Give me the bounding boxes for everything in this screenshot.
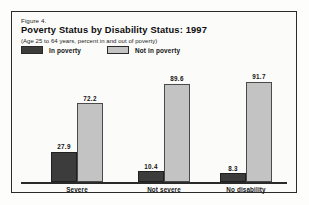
- figure-frame: Figure 4. Poverty Status by Disability S…: [11, 11, 297, 193]
- legend-swatch-in-poverty-icon: [21, 46, 43, 54]
- bar-group-not-severe: 10.4 89.6: [138, 72, 190, 182]
- bar-wrap-not-severe-not-in-poverty: 89.6: [164, 72, 190, 182]
- legend-item-in-poverty[interactable]: In poverty: [21, 46, 81, 54]
- figure-root: Figure 4. Poverty Status by Disability S…: [0, 0, 309, 205]
- x-axis-baseline: [21, 182, 287, 184]
- bar-not-severe-not-in-poverty[interactable]: [164, 84, 190, 183]
- bar-group-severe: 27.9 72.2: [51, 72, 103, 182]
- bar-severe-in-poverty[interactable]: [51, 152, 77, 183]
- chart-legend: In poverty Not in poverty: [21, 46, 180, 54]
- bar-not-severe-in-poverty[interactable]: [138, 171, 164, 182]
- bar-wrap-severe-not-in-poverty: 72.2: [77, 72, 103, 182]
- legend-label-in-poverty: In poverty: [49, 47, 81, 54]
- figure-subtitle: (Age 25 to 64 years, percent in and out …: [21, 37, 289, 46]
- bar-wrap-no-disability-not-in-poverty: 91.7: [246, 72, 272, 182]
- category-label-severe: Severe: [51, 186, 103, 193]
- bar-no-disability-not-in-poverty[interactable]: [246, 82, 272, 183]
- figure-header: Figure 4. Poverty Status by Disability S…: [21, 17, 289, 46]
- category-label-not-severe: Not severe: [138, 186, 190, 193]
- bar-no-disability-in-poverty[interactable]: [220, 173, 246, 182]
- legend-swatch-not-in-poverty-icon: [107, 46, 129, 54]
- bar-wrap-severe-in-poverty: 27.9: [51, 72, 77, 182]
- figure-number: Figure 4.: [21, 17, 289, 25]
- bar-wrap-not-severe-in-poverty: 10.4: [138, 72, 164, 182]
- bar-wrap-no-disability-in-poverty: 8.3: [220, 72, 246, 182]
- bar-severe-not-in-poverty[interactable]: [77, 103, 103, 182]
- legend-label-not-in-poverty: Not in poverty: [135, 47, 180, 54]
- bar-value-no-disability-not-in-poverty: 91.7: [252, 73, 265, 80]
- plot-area: 27.9 72.2 Severe 10.4 89.6: [21, 60, 287, 184]
- category-label-no-disability: No disability: [218, 186, 274, 193]
- legend-item-not-in-poverty[interactable]: Not in poverty: [107, 46, 180, 54]
- bar-group-no-disability: 8.3 91.7: [220, 72, 272, 182]
- bar-value-not-severe-in-poverty: 10.4: [144, 163, 157, 170]
- bar-value-severe-not-in-poverty: 72.2: [83, 95, 96, 102]
- bar-value-not-severe-not-in-poverty: 89.6: [170, 75, 183, 82]
- bar-value-severe-in-poverty: 27.9: [57, 143, 70, 150]
- bar-value-no-disability-in-poverty: 8.3: [228, 165, 238, 172]
- figure-title: Poverty Status by Disability Status: 199…: [21, 25, 289, 37]
